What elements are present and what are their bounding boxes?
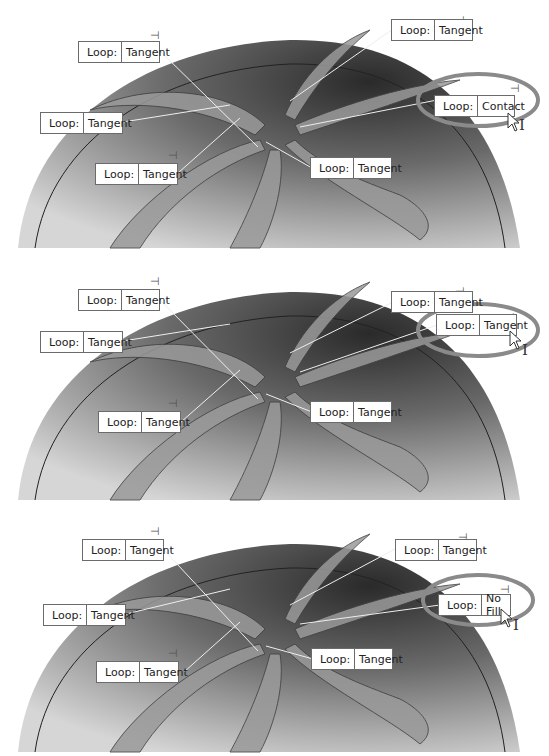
callout-loop[interactable]: Loop: Tangent	[310, 157, 392, 179]
callout-value[interactable]: Tangent	[140, 662, 202, 682]
callout-loop-highlighted[interactable]: Loop: Contact	[434, 95, 515, 117]
callout-key: Loop:	[439, 595, 482, 615]
pushpin-icon[interactable]: ⊣	[150, 30, 160, 41]
callout-value[interactable]: Tangent	[355, 649, 417, 669]
callout-key: Loop:	[435, 96, 478, 116]
pushpin-icon[interactable]: ⊣	[168, 398, 178, 409]
ibeam-cursor-icon: I	[522, 343, 528, 358]
callout-value[interactable]: Tangent	[122, 290, 184, 310]
panel-3: ⊣ ⊣ ⊣ ⊣ Loop: Tangent Loop: Tangent Loop…	[0, 504, 549, 756]
callout-key: Loop:	[79, 42, 122, 62]
callout-value[interactable]: Tangent	[122, 42, 184, 62]
pushpin-icon[interactable]: ⊣	[168, 648, 178, 659]
callout-value[interactable]: Tangent	[439, 540, 501, 560]
callout-key: Loop:	[41, 332, 84, 352]
arrow-cursor-icon	[509, 330, 523, 350]
pushpin-icon[interactable]: ⊣	[510, 83, 520, 94]
pushpin-icon[interactable]: ⊣	[150, 276, 160, 287]
callout-loop[interactable]: Loop: Tangent	[95, 163, 178, 185]
callout-value[interactable]: Tangent	[354, 402, 416, 422]
callout-loop[interactable]: Loop: Tangent	[82, 539, 164, 561]
pushpin-icon[interactable]: ⊣	[150, 526, 160, 537]
callout-value[interactable]: Tangent	[84, 332, 146, 352]
callout-key: Loop:	[396, 540, 439, 560]
callout-loop[interactable]: Loop: Tangent	[98, 411, 181, 433]
ibeam-cursor-icon: I	[513, 618, 519, 633]
callout-loop[interactable]: Loop: Tangent	[310, 401, 392, 423]
callout-value[interactable]: Tangent	[435, 20, 497, 40]
callout-key: Loop:	[99, 412, 142, 432]
ibeam-cursor-icon: I	[519, 118, 525, 133]
pushpin-icon[interactable]: ⊣	[168, 150, 178, 161]
callout-key: Loop:	[96, 164, 139, 184]
callout-loop[interactable]: Loop: Tangent	[391, 19, 473, 41]
callout-key: Loop:	[97, 662, 140, 682]
callout-value[interactable]: Tangent	[354, 158, 416, 178]
callout-loop[interactable]: Loop: Tangent	[78, 41, 160, 63]
callout-key: Loop:	[392, 20, 435, 40]
callout-loop[interactable]: Loop: Tangent	[40, 331, 123, 353]
callout-value[interactable]: Tangent	[87, 605, 149, 625]
callout-key: Loop:	[79, 290, 122, 310]
callout-key: Loop:	[41, 113, 84, 133]
callout-value[interactable]: Tangent	[126, 540, 188, 560]
callout-key: Loop:	[312, 649, 355, 669]
callout-key: Loop:	[311, 158, 354, 178]
callout-loop[interactable]: Loop: Tangent	[391, 291, 473, 313]
callout-key: Loop:	[392, 292, 435, 312]
callout-key: Loop:	[437, 315, 480, 335]
callout-loop[interactable]: Loop: Tangent	[78, 289, 160, 311]
arrow-cursor-icon	[500, 608, 514, 628]
callout-loop[interactable]: Loop: Tangent	[311, 648, 393, 670]
callout-value[interactable]: Tangent	[142, 412, 204, 432]
callout-value[interactable]: Tangent	[84, 113, 146, 133]
callout-loop[interactable]: Loop: Tangent	[43, 604, 126, 626]
callout-key: Loop:	[44, 605, 87, 625]
callout-value[interactable]: Tangent	[139, 164, 201, 184]
panel-1: ⊣ ⊣ ⊣ ⊣ Loop: Tangent Loop: Tangent Loop…	[0, 0, 549, 252]
callout-loop[interactable]: Loop: Tangent	[40, 112, 123, 134]
callout-loop-highlighted[interactable]: Loop: Tangent	[436, 314, 517, 336]
callout-key: Loop:	[83, 540, 126, 560]
panel-2: ⊣ ⊣ ⊣ ⊣ Loop: Tangent Loop: Tangent Loop…	[0, 252, 549, 504]
callout-loop[interactable]: Loop: Tangent	[395, 539, 477, 561]
callout-key: Loop:	[311, 402, 354, 422]
callout-value[interactable]: Tangent	[435, 292, 497, 312]
callout-loop[interactable]: Loop: Tangent	[96, 661, 179, 683]
